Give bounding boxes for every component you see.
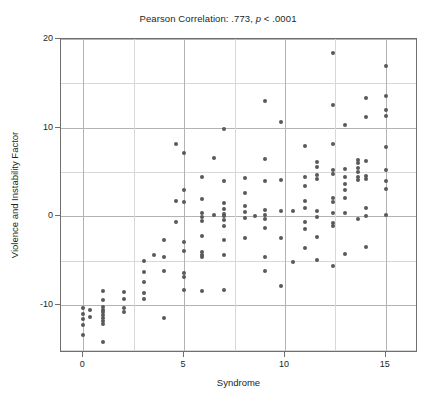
gridline-vertical [184, 39, 185, 351]
data-point [364, 115, 368, 119]
data-point [384, 64, 388, 68]
data-point [81, 306, 85, 310]
data-point [212, 213, 216, 217]
data-point [343, 196, 347, 200]
gridline-vertical [386, 39, 387, 351]
data-point [356, 170, 360, 174]
data-point [263, 208, 267, 212]
chart-title-suffix: < .0001 [261, 13, 296, 24]
data-point [142, 270, 146, 274]
data-point [303, 246, 307, 250]
y-axis-tick-label: -10 [40, 299, 53, 309]
y-axis-tick [55, 127, 60, 128]
data-point [182, 249, 186, 253]
gridline-horizontal [61, 216, 416, 217]
data-point [142, 291, 146, 295]
y-axis-tick [55, 304, 60, 305]
data-point [303, 175, 307, 179]
data-point [364, 214, 368, 218]
data-point [122, 297, 126, 301]
x-axis-tick-label: 5 [180, 359, 185, 369]
data-point [356, 178, 360, 182]
data-point [200, 219, 204, 223]
data-point [88, 315, 92, 319]
data-point [364, 96, 368, 100]
data-point [182, 188, 186, 192]
gridline-vertical [134, 39, 135, 351]
data-point [182, 151, 186, 155]
data-point [182, 288, 186, 292]
y-axis-tick [55, 38, 60, 39]
data-point [364, 245, 368, 249]
data-point [331, 103, 335, 107]
data-point [222, 127, 226, 131]
data-point [88, 308, 92, 312]
data-point [279, 120, 283, 124]
data-point [315, 173, 319, 177]
gridline-horizontal [61, 350, 416, 351]
data-point [182, 200, 186, 204]
data-point [142, 280, 146, 284]
data-point [263, 255, 267, 259]
data-point [384, 187, 388, 191]
data-point [200, 289, 204, 293]
data-point [243, 204, 247, 208]
data-point [315, 235, 319, 239]
data-point [315, 165, 319, 169]
data-point [122, 306, 126, 310]
data-point [263, 217, 267, 221]
gridline-vertical [285, 39, 286, 351]
data-point [279, 209, 283, 213]
y-axis-tick-label: 20 [43, 33, 53, 43]
gridline-horizontal [61, 261, 416, 262]
data-point [303, 144, 307, 148]
x-axis-label: Syndrome [60, 377, 417, 388]
x-axis-tick [284, 352, 285, 357]
chart-title-prefix: Pearson Correlation: .773, [139, 13, 255, 24]
data-point [174, 199, 178, 203]
data-point [364, 159, 368, 163]
data-point [101, 340, 105, 344]
chart-type: scatter [0, 0, 1, 1]
gridline-vertical [83, 39, 84, 351]
data-point [101, 322, 105, 326]
data-point [384, 114, 388, 118]
data-point [291, 260, 295, 264]
gridline-vertical [335, 39, 336, 351]
data-point [279, 236, 283, 240]
data-point [315, 177, 319, 181]
data-point [162, 269, 166, 273]
data-point [343, 252, 347, 256]
data-point [315, 215, 319, 219]
data-point [142, 259, 146, 263]
y-axis-tick [55, 215, 60, 216]
x-axis-tick [385, 352, 386, 357]
data-point [343, 182, 347, 186]
data-point [243, 176, 247, 180]
gridline-horizontal [61, 172, 416, 173]
data-point [174, 142, 178, 146]
data-point [315, 160, 319, 164]
data-point [81, 317, 85, 321]
data-point [263, 99, 267, 103]
gridline-vertical [235, 39, 236, 351]
data-point [101, 298, 105, 302]
data-point [243, 216, 247, 220]
data-point [122, 310, 126, 314]
data-point [343, 175, 347, 179]
data-point [101, 289, 105, 293]
y-axis-tick-label: 0 [48, 210, 53, 220]
data-point [356, 161, 360, 165]
data-point [263, 157, 267, 161]
data-point [182, 240, 186, 244]
data-point [303, 220, 307, 224]
data-point [174, 220, 178, 224]
data-point [200, 234, 204, 238]
data-point [263, 213, 267, 217]
data-point [243, 191, 247, 195]
data-point [222, 253, 226, 257]
data-point [364, 206, 368, 210]
data-point [303, 184, 307, 188]
data-point [81, 312, 85, 316]
data-point [315, 209, 319, 213]
